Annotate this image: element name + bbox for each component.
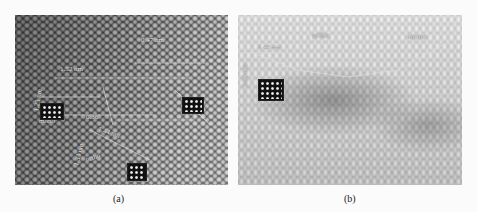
micrograph-panel-b: 1.44 nm 1.33 nm ortho mono — [238, 15, 462, 185]
label-0-47-nm: 0.47 nm — [141, 37, 164, 44]
structure-inset-right — [182, 97, 204, 114]
label-1-33-nm: 1.33 nm — [242, 64, 249, 87]
structure-inset-mono — [40, 103, 64, 120]
label-mono: mono — [408, 33, 426, 41]
label-1-52-nm: 1.52 nm — [60, 66, 83, 73]
micrograph-panel-a: 0.47 nm 1.52 nm 1.23 nm 0.36 1.44 nm 1.3… — [15, 15, 228, 185]
structure-inset-ortho — [127, 163, 147, 181]
structure-inset-ortho — [258, 79, 284, 101]
label-ortho: ortho — [312, 32, 329, 40]
label-1-44-nm: 1.44 nm — [258, 44, 281, 51]
caption-b: (b) — [344, 193, 356, 204]
caption-a: (a) — [113, 193, 124, 204]
label-0-36: 0.36 — [86, 114, 98, 121]
